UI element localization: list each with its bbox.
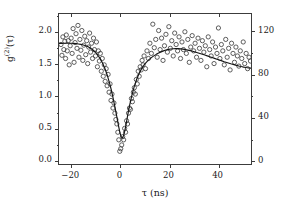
data-point — [231, 51, 235, 55]
data-point — [70, 51, 74, 55]
data-point — [205, 65, 209, 69]
data-point — [177, 35, 181, 39]
data-point — [208, 47, 212, 51]
y-axis-title: g(2)(τ) — [3, 50, 15, 62]
x-tick-major — [120, 164, 121, 168]
y-axis-title-superscript: (2) — [3, 47, 11, 56]
data-point — [184, 51, 188, 55]
data-point — [117, 138, 121, 142]
data-point — [80, 28, 84, 32]
data-point — [145, 49, 149, 53]
data-point — [200, 39, 204, 43]
x-tick-label: 40 — [198, 171, 238, 180]
data-point — [224, 37, 228, 41]
data-point — [221, 49, 225, 53]
x-tick-label: 20 — [149, 171, 189, 180]
data-point — [199, 58, 203, 62]
y-tick-major — [55, 64, 59, 65]
data-point — [101, 74, 105, 78]
data-point — [69, 36, 73, 40]
data-point — [193, 41, 197, 45]
y2-tick-major — [251, 161, 255, 162]
data-point — [81, 58, 85, 62]
data-point — [225, 55, 229, 59]
figure-antibunching-correlation: g(2)(τ) τ (ns) 0.00.51.01.52.004080120−2… — [0, 0, 299, 210]
x-tick-top — [219, 14, 220, 17]
data-point — [74, 32, 78, 36]
data-point — [243, 61, 247, 65]
y-axis-title-base: g — [5, 56, 15, 62]
data-point — [183, 30, 187, 34]
y2-tick-label: 40 — [258, 112, 269, 121]
data-point — [88, 50, 92, 54]
x-tick-label: 0 — [99, 171, 139, 180]
data-point — [152, 46, 156, 50]
y-tick-minor — [57, 113, 59, 114]
data-point — [238, 49, 242, 53]
data-point — [71, 26, 75, 30]
data-point — [143, 67, 147, 71]
data-point — [228, 68, 232, 72]
y2-tick-minor — [251, 140, 253, 141]
data-point — [206, 35, 210, 39]
plot-canvas — [59, 14, 251, 164]
data-point — [171, 54, 175, 58]
data-point — [173, 31, 177, 35]
data-point — [235, 54, 239, 58]
data-point — [244, 51, 248, 55]
data-point — [63, 56, 67, 60]
y-tick-minor — [57, 145, 59, 146]
y2-tick-label: 80 — [258, 69, 269, 78]
x-tick-label: −20 — [50, 171, 90, 180]
data-point — [180, 40, 184, 44]
data-point — [77, 55, 81, 59]
data-point — [197, 46, 201, 50]
y-tick-label: 0.5 — [38, 123, 52, 132]
data-point — [157, 28, 161, 32]
data-point — [190, 33, 194, 37]
y2-tick-major — [251, 31, 255, 32]
data-point — [68, 44, 72, 48]
x-tick-top — [170, 14, 171, 17]
data-point — [202, 50, 206, 54]
data-point — [148, 41, 152, 45]
data-point — [240, 56, 244, 60]
data-point — [187, 60, 191, 64]
data-point — [86, 61, 90, 65]
data-point — [155, 55, 159, 59]
data-point — [194, 55, 198, 59]
data-point — [161, 58, 165, 62]
data-point — [203, 44, 207, 48]
data-point — [95, 65, 99, 69]
data-point — [215, 51, 219, 55]
y-tick-major — [55, 129, 59, 130]
data-point — [210, 40, 214, 44]
data-point — [79, 48, 83, 52]
data-point — [178, 56, 182, 60]
data-point — [241, 40, 245, 44]
y2-tick-label: 120 — [258, 26, 274, 35]
y2-tick-label: 0 — [258, 156, 263, 165]
data-point — [149, 51, 153, 55]
data-point — [72, 60, 76, 64]
data-point — [196, 36, 200, 40]
data-point — [213, 45, 217, 49]
y-tick-major — [55, 96, 59, 97]
data-point — [189, 45, 193, 49]
data-point — [103, 79, 107, 83]
data-point — [118, 149, 122, 153]
data-point — [174, 42, 178, 46]
scatter-points — [59, 22, 251, 153]
data-point — [60, 53, 64, 57]
data-point — [76, 23, 80, 27]
data-point — [64, 33, 68, 37]
y-tick-minor — [57, 16, 59, 17]
data-point — [212, 61, 216, 65]
data-point — [175, 49, 179, 53]
y-tick-major — [55, 161, 59, 162]
data-point — [167, 25, 171, 29]
data-point — [227, 46, 231, 50]
data-point — [91, 36, 95, 40]
data-point — [89, 41, 93, 45]
data-point — [162, 44, 166, 48]
